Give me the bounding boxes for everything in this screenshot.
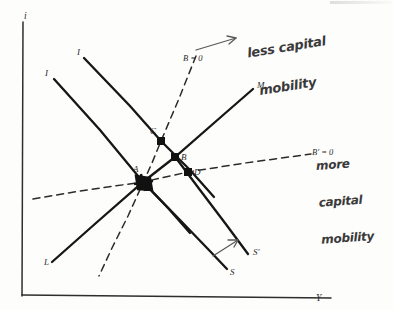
point-marker-C bbox=[157, 137, 165, 145]
curve-S bbox=[143, 182, 227, 269]
arrow-to-less-capital-mobility bbox=[196, 38, 236, 50]
point-marker-D bbox=[184, 168, 192, 176]
diagram-page: i Y I I L M S S' B = 0 B' = 0 A B C D le… bbox=[0, 0, 393, 310]
x-axis-label: Y bbox=[316, 294, 321, 304]
curve-label-S: S bbox=[230, 268, 235, 277]
annotation-less-line2: mobility bbox=[258, 73, 333, 98]
curve-label-B-zero: B = 0 bbox=[183, 54, 202, 63]
annotation-more-line2: capital bbox=[318, 193, 372, 209]
arrow-S-to-S-prime bbox=[213, 240, 238, 256]
annotation-less-capital-mobility: less capital mobility bbox=[242, 8, 337, 125]
curve-label-I-lower: I bbox=[45, 69, 48, 78]
curve-label-L: L bbox=[44, 258, 49, 267]
point-label-A: A bbox=[133, 165, 139, 174]
point-label-C: C bbox=[150, 127, 156, 136]
annotation-more-line3: mobility bbox=[321, 230, 375, 246]
annotation-less-line1: less capital bbox=[246, 34, 326, 60]
point-marker-B bbox=[171, 153, 179, 161]
y-axis bbox=[22, 22, 23, 296]
point-label-D: D bbox=[194, 168, 201, 177]
curve-label-I-upper: I bbox=[77, 48, 80, 57]
x-axis bbox=[22, 295, 331, 298]
point-label-B: B bbox=[181, 153, 187, 162]
annotation-more-line1: more bbox=[316, 157, 370, 173]
annotation-more-capital-mobility: more capital mobility bbox=[314, 132, 376, 270]
y-axis-label: i bbox=[24, 12, 27, 22]
curve-LM bbox=[52, 89, 253, 262]
curve-label-S-prime: S' bbox=[253, 248, 259, 257]
